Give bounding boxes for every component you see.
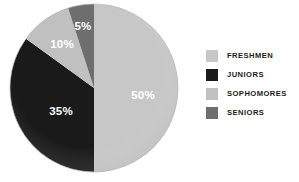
legend-label-sophomores: SOPHOMORES [227, 90, 287, 98]
legend-swatch-juniors [206, 69, 218, 81]
legend-item-sophomores[interactable]: SOPHOMORES [206, 84, 298, 103]
slice-value-label-juniors: 35% [49, 105, 73, 117]
legend-swatch-seniors [206, 107, 218, 119]
legend-label-freshmen: FRESHMEN [227, 52, 273, 60]
slice-value-label-sophomores: 10% [50, 38, 74, 50]
legend-label-juniors: JUNIORS [227, 71, 264, 79]
chart-legend: FRESHMEN JUNIORS SOPHOMORES SENIORS [206, 46, 298, 122]
pie-chart-svg: 50% 35% 10% 5% [8, 3, 182, 179]
pie-chart-figure: 50% 35% 10% 5% FRESHMEN JUNIORS SOPHOMOR… [0, 0, 299, 182]
slice-value-label-seniors: 5% [74, 20, 91, 32]
legend-item-seniors[interactable]: SENIORS [206, 103, 298, 122]
pie-shading-overlay [10, 4, 178, 172]
legend-swatch-freshmen [206, 50, 218, 62]
pie-chart-plot-area: 50% 35% 10% 5% [8, 3, 182, 179]
legend-swatch-sophomores [206, 88, 218, 100]
legend-item-freshmen[interactable]: FRESHMEN [206, 46, 298, 65]
legend-item-juniors[interactable]: JUNIORS [206, 65, 298, 84]
legend-label-seniors: SENIORS [227, 109, 264, 117]
slice-value-label-freshmen: 50% [131, 89, 155, 101]
